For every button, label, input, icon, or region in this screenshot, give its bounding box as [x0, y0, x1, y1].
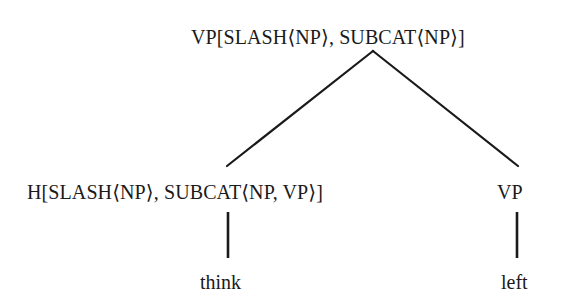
root-node-label: VP[SLASH⟨NP⟩, SUBCAT⟨NP⟩] — [191, 27, 465, 47]
head-node-label: H[SLASH⟨NP⟩, SUBCAT⟨NP, VP⟩] — [27, 182, 323, 202]
leaf-think: think — [200, 272, 241, 292]
leaf-left: left — [501, 272, 528, 292]
edge-root-to-head — [227, 51, 373, 166]
edge-root-to-vp — [373, 51, 518, 166]
vp-node-label: VP — [497, 182, 523, 202]
